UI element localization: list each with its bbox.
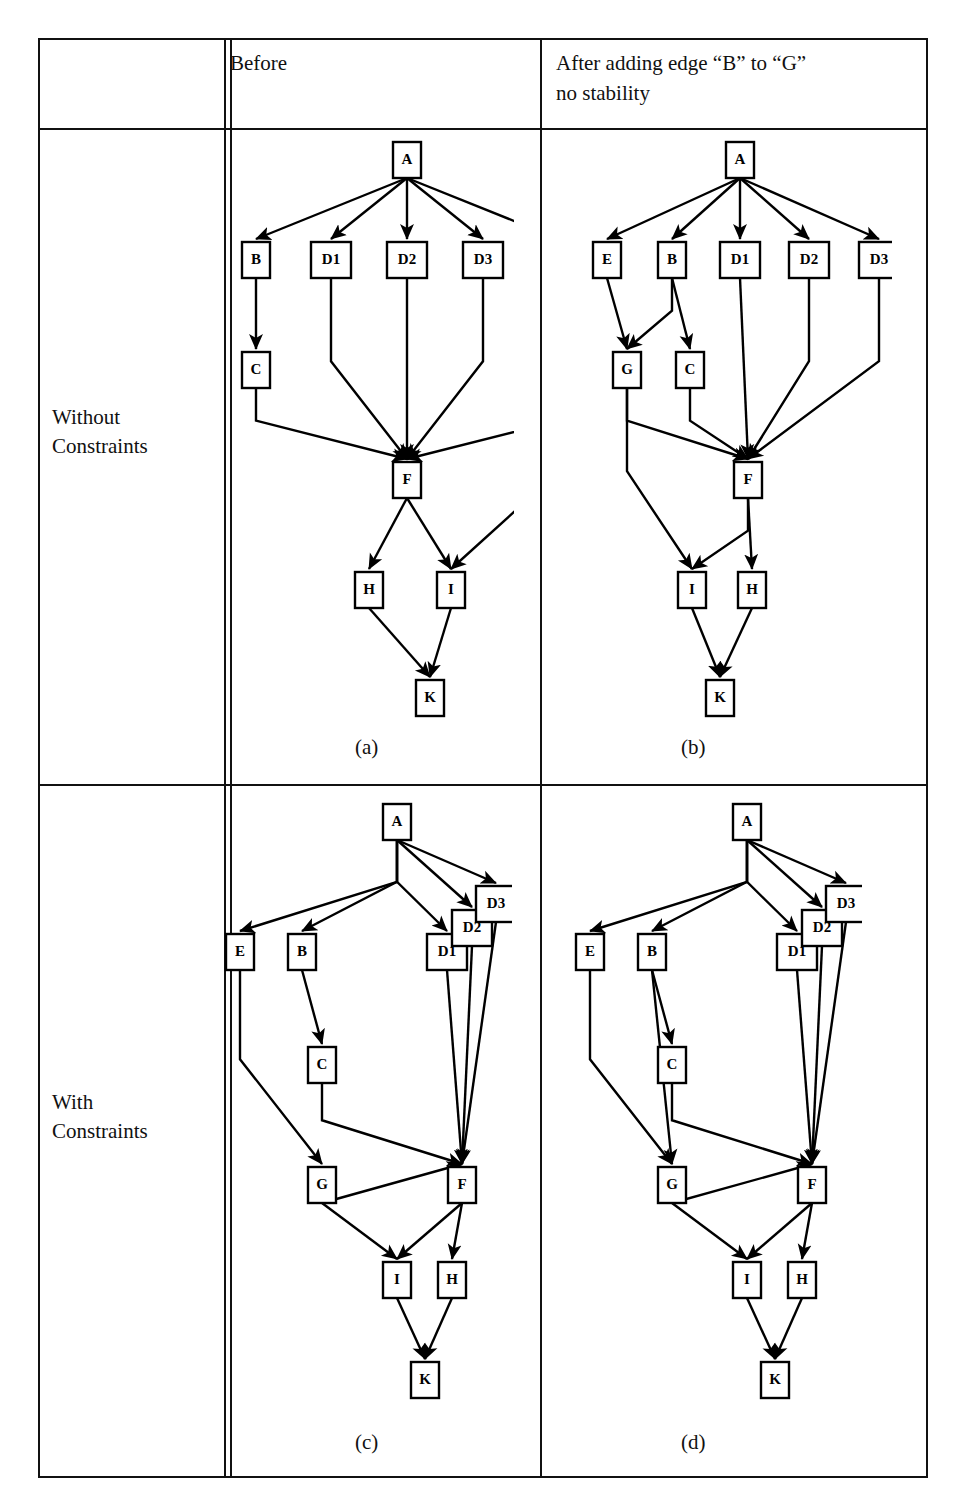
graph-node-K[interactable]: K (761, 1362, 789, 1398)
graph-node-G[interactable]: G (658, 1167, 686, 1203)
node-label: E (585, 943, 595, 959)
graph-node-I[interactable]: I (678, 572, 706, 608)
node-label: B (647, 943, 657, 959)
graph-node-F[interactable]: F (734, 462, 762, 498)
graph-node-G[interactable]: G (308, 1167, 336, 1203)
graph-node-A[interactable]: A (383, 804, 411, 840)
graph-node-D2[interactable]: D2 (789, 242, 829, 278)
graph-node-K[interactable]: K (411, 1362, 439, 1398)
graph-node-A[interactable]: A (726, 142, 754, 178)
edge-A-to-E (240, 840, 397, 931)
edge-H-to-K (369, 608, 430, 677)
column-header-before: Before (230, 48, 287, 78)
table-header-rule (40, 128, 926, 130)
node-label: D1 (731, 251, 749, 267)
node-layer: AEBD1D2D3CGFIHK (576, 804, 862, 1398)
node-label: E (235, 943, 245, 959)
graph-node-E[interactable]: E (576, 934, 604, 970)
node-label: G (666, 1176, 678, 1192)
graph-node-B[interactable]: B (638, 934, 666, 970)
node-label: D2 (800, 251, 818, 267)
graph-node-H[interactable]: H (355, 572, 383, 608)
graph-node-D3[interactable]: D3 (463, 242, 503, 278)
edge-A-to-D1 (397, 840, 447, 931)
edge-I-to-K (397, 1298, 425, 1359)
node-label: G (621, 361, 633, 377)
node-label: F (457, 1176, 466, 1192)
graph-node-E[interactable]: E (226, 934, 254, 970)
edge-B-to-C (672, 278, 690, 349)
node-label: E (602, 251, 612, 267)
edge-G-to-I (672, 1203, 747, 1259)
node-label: A (735, 151, 746, 167)
graph-node-B[interactable]: B (242, 242, 270, 278)
edge-A-to-D1 (747, 840, 797, 931)
edge-F-to-I (747, 1203, 812, 1259)
graph-node-A[interactable]: A (733, 804, 761, 840)
node-label: F (743, 471, 752, 487)
node-label: A (402, 151, 413, 167)
graph-node-H[interactable]: H (788, 1262, 816, 1298)
node-label: I (744, 1271, 750, 1287)
graph-node-H[interactable]: H (738, 572, 766, 608)
edge-A-to-D3 (747, 840, 846, 883)
caption-b: (b) (681, 735, 706, 760)
graph-node-D1[interactable]: D1 (311, 242, 351, 278)
edge-I-to-K (747, 1298, 775, 1359)
graph-node-D3[interactable]: D3 (859, 242, 892, 278)
graph-svg: ABD1D2D3ECGFHIK (214, 138, 514, 738)
edge-C-to-F (672, 1083, 812, 1164)
graph-node-C[interactable]: C (658, 1047, 686, 1083)
node-label: C (685, 361, 696, 377)
graph-node-A[interactable]: A (393, 142, 421, 178)
table-col2-divider (540, 40, 542, 1476)
graph-node-D2[interactable]: D2 (387, 242, 427, 278)
edge-D1-to-F (797, 970, 812, 1164)
edge-G-to-F (672, 1164, 812, 1203)
edge-A-to-E (590, 840, 747, 931)
graph-node-B[interactable]: B (288, 934, 316, 970)
graph-node-I[interactable]: I (733, 1262, 761, 1298)
node-label: D3 (870, 251, 888, 267)
graph-node-I[interactable]: I (383, 1262, 411, 1298)
node-label: C (251, 361, 262, 377)
graph-node-B[interactable]: B (658, 242, 686, 278)
node-label: D3 (474, 251, 492, 267)
edge-A-to-D1 (331, 178, 407, 239)
edge-D1-to-F (331, 278, 407, 459)
graph-node-K[interactable]: K (706, 680, 734, 716)
edge-F-to-I (692, 498, 748, 569)
edge-F-to-H (369, 498, 407, 569)
edge-B-to-G (627, 278, 672, 349)
node-label: D1 (322, 251, 340, 267)
graph-node-E[interactable]: E (593, 242, 621, 278)
graph-node-K[interactable]: K (416, 680, 444, 716)
graph-node-I[interactable]: I (437, 572, 465, 608)
graph-node-D3[interactable]: D3 (826, 886, 862, 922)
graph-node-C[interactable]: C (676, 352, 704, 388)
graph-node-H[interactable]: H (438, 1262, 466, 1298)
graph-svg: AEBD1D2D3CGFIHK (212, 800, 512, 1420)
edge-D1-to-F (740, 278, 748, 459)
graph-node-F[interactable]: F (393, 462, 421, 498)
edge-F-to-H (748, 498, 752, 569)
edge-C-to-F (322, 1083, 462, 1164)
edge-G-to-I (627, 388, 692, 569)
node-label: C (667, 1056, 678, 1072)
graph-svg: AEBD1D2D3GCFIHK (552, 138, 892, 738)
graph-node-D3[interactable]: D3 (476, 886, 512, 922)
node-label: H (746, 581, 758, 597)
edge-A-to-D2 (747, 840, 822, 907)
graph-node-D1[interactable]: D1 (720, 242, 760, 278)
graph-node-G[interactable]: G (613, 352, 641, 388)
graph-node-C[interactable]: C (242, 352, 270, 388)
graph-node-F[interactable]: F (448, 1167, 476, 1203)
node-label: A (742, 813, 753, 829)
edge-I-to-K (430, 608, 451, 677)
figure-page: Before After adding edge “B” to “G” no s… (0, 0, 962, 1501)
row-label-without-constraints: Without Constraints (52, 403, 148, 461)
graph-svg: AEBD1D2D3CGFIHK (562, 800, 862, 1420)
graph-node-C[interactable]: C (308, 1047, 336, 1083)
node-label: K (424, 689, 436, 705)
graph-node-F[interactable]: F (798, 1167, 826, 1203)
